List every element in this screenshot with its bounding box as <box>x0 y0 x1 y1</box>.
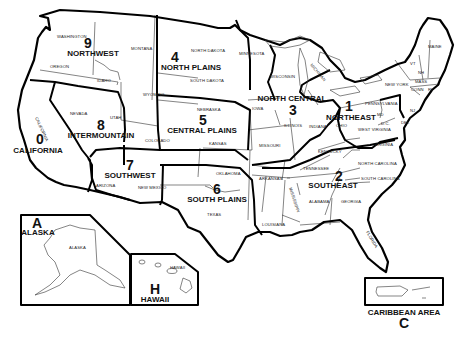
state-label-maryland: MD <box>377 112 384 117</box>
state-label-connecticut: CONN <box>411 87 424 92</box>
state-label-hawaii: HAWAII <box>170 265 185 270</box>
state-label-west-virginia: WEST VIRGINIA <box>358 127 391 132</box>
state-label-utah: UTAH <box>110 115 122 120</box>
state-label-washington: WASHINGTON <box>57 34 87 39</box>
region-name-california: CALIFORNIA <box>13 146 63 155</box>
region-name-alaska: ALASKA <box>21 228 55 237</box>
region-name-southwest: SOUTHWEST <box>104 171 155 180</box>
state-label-massachusetts: MASS <box>415 79 427 84</box>
state-label-north-carolina: NORTH CAROLINA <box>358 161 397 166</box>
region-name-south-plains: SOUTH PLAINS <box>187 195 247 204</box>
state-label-south-dakota: SOUTH DAKOTA <box>190 78 224 83</box>
state-label-missouri: MISSOURI <box>259 143 281 148</box>
region-labels: 9 NORTHWEST 4 NORTH PLAINS NORTH CENTRAL… <box>13 35 440 331</box>
state-label-iowa: IOWA <box>252 106 264 111</box>
region-name-southeast: SOUTHEAST <box>308 181 357 190</box>
state-label-tennessee: TENNESSEE <box>303 166 329 171</box>
state-label-delaware: DEL <box>401 120 410 125</box>
state-label-virginia: VIRGINIA <box>374 142 393 147</box>
state-label-oregon: OREGON <box>50 64 69 69</box>
state-label-new-york: NEW YORK <box>385 82 409 87</box>
region-letter-c: C <box>399 315 409 331</box>
state-label-wisconsin: WISCONSIN <box>270 74 295 79</box>
state-label-kansas: KANSAS <box>209 141 227 146</box>
region-name-northeast: NORTHEAST <box>326 113 376 122</box>
state-label-georgia: GEORGIA <box>341 199 361 204</box>
region-name-hawaii: HAWAII <box>141 295 169 304</box>
state-label-texas: TEXAS <box>207 212 221 217</box>
region-name-north-plains: NORTH PLAINS <box>161 63 222 72</box>
state-label-kentucky: KENTUCKY <box>318 149 342 154</box>
state-label-dc: D.C. <box>381 121 390 126</box>
great-lakes <box>265 36 382 96</box>
region-name-intermountain: INTERMOUNTAIN <box>68 131 135 140</box>
state-label-new-mexico: NEW MEXICO <box>138 185 167 190</box>
state-label-vermont: VT <box>410 61 416 66</box>
region-number-3: 3 <box>289 102 297 118</box>
us-regions-map: WASHINGTON OREGON IDAHO MONTANA WYOMING … <box>0 0 465 340</box>
state-label-arizona: ARIZONA <box>96 183 115 188</box>
state-label-north-dakota: NORTH DAKOTA <box>191 48 225 53</box>
state-label-new-hampshire: NH <box>418 70 424 75</box>
state-label-colorado: COLORADO <box>145 138 170 143</box>
state-label-pennsylvania: PENNSYLVANIA <box>365 101 398 106</box>
caribbean-inset <box>365 278 443 305</box>
state-label-indiana: INDIANA <box>309 124 327 129</box>
state-label-maine: MAINE <box>428 44 442 49</box>
state-label-wyoming: WYOMING <box>143 92 165 97</box>
state-label-ohio: OHIO <box>336 123 348 128</box>
map-canvas: WASHINGTON OREGON IDAHO MONTANA WYOMING … <box>0 0 465 340</box>
region-name-central-plains: CENTRAL PLAINS <box>167 126 237 135</box>
state-label-montana: MONTANA <box>131 46 152 51</box>
state-label-nevada: NEVADA <box>70 111 88 116</box>
region-number-1: 1 <box>345 98 353 114</box>
state-label-new-jersey: NJ <box>410 108 415 113</box>
state-label-louisiana: LOUISIANA <box>262 222 285 227</box>
state-label-south-carolina: SOUTH CAROLINA <box>361 176 400 181</box>
state-label-illinois: ILLINOIS <box>284 123 302 128</box>
state-label-arkansas: ARKANSAS <box>259 176 283 181</box>
state-label-alaska: ALASKA <box>69 245 86 250</box>
state-label-oklahoma: OKLAHOMA <box>216 171 241 176</box>
region-number-0: 0 <box>36 131 44 147</box>
region-name-northwest: NORTHWEST <box>67 49 119 58</box>
state-label-minnesota: MINNESOTA <box>239 51 265 56</box>
state-label-alabama: ALABAMA <box>309 199 330 204</box>
state-label-rhode-island: RI <box>428 87 432 92</box>
state-label-idaho: IDAHO <box>97 78 111 83</box>
